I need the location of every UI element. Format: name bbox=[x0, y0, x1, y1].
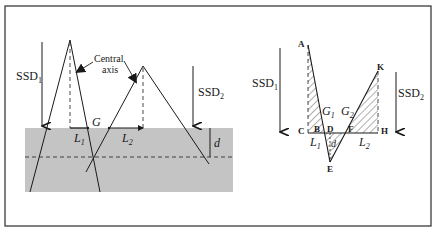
central-axis-pointer-2 bbox=[124, 61, 136, 82]
left-ssd2-label: SSD2 bbox=[198, 85, 224, 101]
field-matching-diagram: SSD1 SSD2 Central axis G L1 L2 d A K C B… bbox=[0, 0, 435, 233]
gap-marker-left bbox=[87, 127, 89, 129]
left-ssd1-label: SSD1 bbox=[16, 69, 42, 85]
right-panel: A K C B D F H E SSD1 SSD2 G1 G2 L1 L2 d bbox=[252, 39, 424, 174]
point-e-label: E bbox=[327, 164, 333, 174]
left-depth-label: d bbox=[214, 136, 221, 150]
point-a-label: A bbox=[298, 39, 305, 49]
point-h-label: H bbox=[381, 126, 388, 136]
right-ssd2-label: SSD2 bbox=[398, 86, 424, 102]
central-axis-label-line1: Central bbox=[94, 53, 124, 64]
point-c-label: C bbox=[298, 126, 305, 136]
g2-label: G2 bbox=[341, 104, 354, 120]
right-l1-label: L1 bbox=[309, 135, 321, 151]
gap-label: G bbox=[92, 115, 101, 129]
g1-label: G1 bbox=[322, 104, 335, 120]
point-d-label: D bbox=[327, 124, 334, 134]
left-panel: SSD1 SSD2 Central axis G L1 L2 d bbox=[16, 40, 233, 192]
central-axis-label-line2: axis bbox=[102, 64, 118, 75]
right-l2-label: L2 bbox=[358, 135, 370, 151]
point-f-label: F bbox=[348, 124, 354, 134]
right-ssd1-label: SSD1 bbox=[252, 76, 278, 92]
gap-marker-right bbox=[108, 127, 110, 129]
central-axis-pointer-1 bbox=[77, 62, 93, 72]
point-b-label: B bbox=[314, 124, 320, 134]
point-k-label: K bbox=[377, 62, 384, 72]
